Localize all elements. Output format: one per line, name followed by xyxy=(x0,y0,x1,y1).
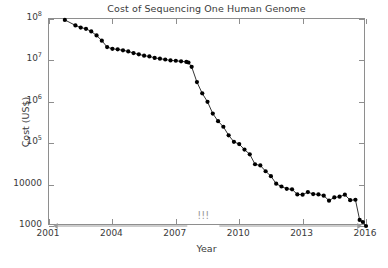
y-tick-label: 107 xyxy=(0,53,42,63)
x-tick-label: 2001 xyxy=(37,228,60,238)
x-tick-mark xyxy=(239,219,240,224)
y-tick-mark xyxy=(359,185,364,186)
x-tick-mark xyxy=(303,19,304,24)
x-tick-mark xyxy=(366,19,367,24)
y-tick-mark xyxy=(359,60,364,61)
x-tick-mark xyxy=(112,19,113,24)
y-tick-mark xyxy=(359,19,364,20)
y-tick-mark xyxy=(359,143,364,144)
x-tick-mark xyxy=(49,219,50,224)
y-tick-mark xyxy=(49,185,54,186)
annotation-layer xyxy=(49,19,366,226)
chart-title: Cost of Sequencing One Human Genome xyxy=(48,3,365,14)
x-axis-label: Year xyxy=(48,243,365,254)
y-tick-label: 10000 xyxy=(0,178,42,188)
y-tick-label: 108 xyxy=(0,12,42,22)
x-tick-label: 2004 xyxy=(100,228,123,238)
x-tick-mark xyxy=(366,219,367,224)
y-tick-label: 106 xyxy=(0,95,42,105)
x-tick-mark xyxy=(176,19,177,24)
x-tick-mark xyxy=(49,19,50,24)
y-axis-label-container: Cost (US$) xyxy=(2,18,16,225)
y-tick-label: 105 xyxy=(0,136,42,146)
y-tick-mark xyxy=(359,102,364,103)
x-tick-mark xyxy=(303,219,304,224)
x-tick-mark xyxy=(112,219,113,224)
x-tick-label: 2007 xyxy=(163,228,186,238)
chart-figure: Cost of Sequencing One Human Genome Cost… xyxy=(0,0,388,268)
x-tick-label: 2010 xyxy=(227,228,250,238)
x-tick-mark xyxy=(176,219,177,224)
plot-inner: !!! xyxy=(49,19,364,224)
y-tick-mark xyxy=(49,102,54,103)
y-tick-mark xyxy=(359,226,364,227)
x-tick-label: 2016 xyxy=(354,228,377,238)
plot-area: !!! xyxy=(48,18,365,225)
y-tick-mark xyxy=(49,143,54,144)
x-tick-mark xyxy=(239,19,240,24)
y-tick-mark xyxy=(49,226,54,227)
annotation-text: !!! xyxy=(197,210,209,221)
y-tick-mark xyxy=(49,60,54,61)
x-tick-label: 2013 xyxy=(290,228,313,238)
